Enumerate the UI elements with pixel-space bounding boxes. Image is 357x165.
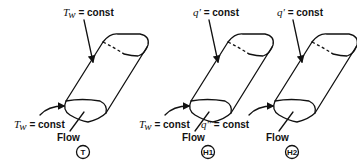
top-label: q′ = const <box>277 6 324 18</box>
inlet-arrow <box>165 106 189 115</box>
duct-shape <box>190 34 274 122</box>
panel-T: Tw = const Tw = const Flow T <box>14 6 148 159</box>
flow-label: Flow <box>266 132 289 143</box>
top-arrow <box>293 20 302 62</box>
panel-H2: q′ = const q″ = const Flow H2 <box>201 6 357 159</box>
flow-label: Flow <box>182 132 205 143</box>
inlet-label: Tw = const <box>14 118 65 132</box>
duct-shape <box>274 34 357 122</box>
flow-label: Flow <box>57 132 80 143</box>
top-label: Tw = const <box>63 6 114 20</box>
duct-boundary-conditions-diagram: Tw = const Tw = const Flow T q′ = const … <box>0 0 357 165</box>
flow-arrow <box>279 112 293 131</box>
badge-label: T <box>81 148 86 157</box>
top-label: q′ = const <box>193 6 240 18</box>
panel-H1: q′ = const Tw = const Flow H1 <box>139 6 273 159</box>
duct-shape <box>65 34 149 122</box>
inlet-label: Tw = const <box>139 118 190 132</box>
badge-label: H1 <box>203 148 214 157</box>
top-arrow <box>209 20 218 62</box>
inlet-label: q″ = const <box>201 118 250 130</box>
top-arrow <box>84 20 93 62</box>
badge-label: H2 <box>287 148 298 157</box>
inlet-arrow <box>40 106 64 115</box>
flow-arrow <box>70 112 84 131</box>
inlet-arrow <box>249 106 273 115</box>
